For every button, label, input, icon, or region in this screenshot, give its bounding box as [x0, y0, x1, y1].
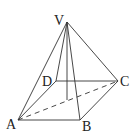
diagonal-a-c: [18, 81, 118, 120]
label-b: B: [82, 119, 91, 133]
label-c: C: [120, 74, 129, 89]
label-a: A: [6, 117, 17, 132]
edge-v-a: [18, 22, 67, 120]
label-d: D: [42, 74, 52, 89]
edge-b-c: [80, 81, 118, 120]
edge-v-b: [67, 22, 80, 120]
edge-v-c: [67, 22, 118, 81]
edge-v-d: [56, 22, 67, 81]
label-v: V: [54, 13, 64, 28]
pyramid-diagram: V D C A B: [0, 0, 140, 133]
